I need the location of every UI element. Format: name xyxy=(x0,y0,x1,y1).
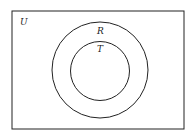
venn-diagram: U R T xyxy=(0,0,187,137)
set-r-label: R xyxy=(96,26,104,36)
set-r-circle xyxy=(52,22,148,118)
set-t-label: T xyxy=(97,44,104,54)
universe-label: U xyxy=(20,17,28,27)
